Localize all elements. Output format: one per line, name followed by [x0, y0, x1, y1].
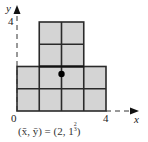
x-tick-4: 4	[103, 113, 109, 124]
caption-suffix: )	[77, 125, 81, 137]
centroid-point	[58, 71, 64, 77]
y-axis-arrow-icon	[14, 5, 21, 14]
origin-label: 0	[11, 113, 17, 124]
y-tick-4: 4	[8, 16, 14, 27]
x-axis-label: x	[134, 114, 139, 125]
centroid-caption: (x̄, ȳ) = (2, 123)	[18, 122, 80, 137]
y-axis-label: y	[6, 3, 11, 14]
caption-prefix: (x̄, ȳ) = (2, 1	[18, 125, 74, 137]
